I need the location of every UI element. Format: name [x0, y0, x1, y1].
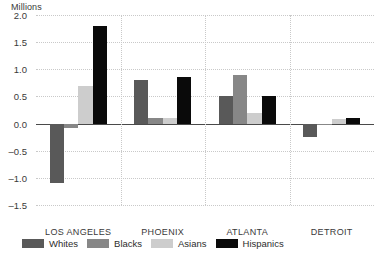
bar	[93, 26, 107, 124]
y-axis-tick-label: 1.5	[0, 37, 27, 48]
y-axis-tick-label: –0.5	[0, 145, 27, 156]
y-axis-tick-label: 2.0	[0, 10, 27, 21]
bar	[233, 75, 247, 124]
group-separator	[290, 15, 291, 205]
legend-swatch-icon	[216, 239, 238, 248]
bar	[332, 119, 346, 123]
bar	[78, 86, 92, 124]
plot-area: 2.01.51.00.50.0–0.5–1.0–1.5LOS ANGELESPH…	[36, 15, 374, 205]
legend-swatch-icon	[151, 239, 173, 248]
legend-label: Hispanics	[243, 238, 284, 249]
legend-item: Blacks	[87, 238, 142, 249]
legend-item: Whites	[22, 238, 78, 249]
bar-chart: Millions 2.01.51.00.50.0–0.5–1.0–1.5LOS …	[0, 0, 381, 262]
bar	[148, 118, 162, 123]
x-axis-category-label: DETROIT	[311, 227, 353, 237]
legend-swatch-icon	[22, 239, 44, 248]
bar	[64, 124, 78, 128]
y-axis-tick-label: 1.0	[0, 64, 27, 75]
y-axis-tick-label: 0.5	[0, 91, 27, 102]
y-axis-tick-label: –1.5	[0, 200, 27, 211]
bar	[219, 96, 233, 123]
x-axis-category-label: ATLANTA	[226, 227, 268, 237]
y-axis-tick-label: –1.0	[0, 172, 27, 183]
bar	[163, 118, 177, 123]
legend-swatch-icon	[87, 239, 109, 248]
bar	[247, 113, 261, 124]
legend-label: Blacks	[114, 238, 142, 249]
legend-label: Asians	[178, 238, 207, 249]
bar	[134, 80, 148, 123]
group-separator	[205, 15, 206, 205]
x-axis-category-label: LOS ANGELES	[45, 227, 111, 237]
bar	[317, 124, 331, 125]
group-separator	[121, 15, 122, 205]
chart-legend: WhitesBlacksAsiansHispanics	[22, 238, 284, 249]
gridline	[36, 205, 374, 206]
legend-item: Asians	[151, 238, 207, 249]
bar	[346, 118, 360, 123]
legend-label: Whites	[49, 238, 78, 249]
bar	[177, 77, 191, 123]
x-axis-category-label: PHOENIX	[141, 227, 184, 237]
bar	[303, 124, 317, 138]
bar	[50, 124, 64, 184]
legend-item: Hispanics	[216, 238, 284, 249]
y-axis-tick-label: 0.0	[0, 118, 27, 129]
bar	[262, 96, 276, 123]
